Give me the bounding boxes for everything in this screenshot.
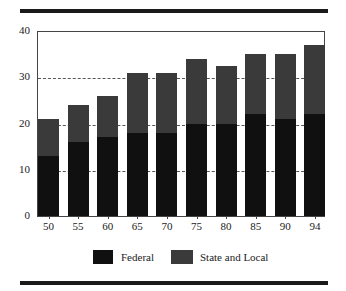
bar-55 [68, 105, 89, 216]
bar-50 [38, 119, 59, 216]
x-tick-label: 55 [63, 220, 93, 232]
y-tick-label: 0 [4, 209, 30, 221]
federal-segment [38, 156, 59, 216]
federal-segment [68, 142, 89, 216]
bar-80 [216, 66, 237, 216]
state-and-local-segment [68, 105, 89, 142]
federal-segment [186, 124, 207, 217]
bar-60 [97, 96, 118, 216]
bar-75 [186, 59, 207, 216]
x-tick-mark [108, 216, 109, 219]
y-tick-label: 10 [4, 163, 30, 175]
x-tick-label: 70 [152, 220, 182, 232]
bar-85 [245, 54, 266, 216]
x-tick-label: 80 [211, 220, 241, 232]
x-axis-line [37, 216, 325, 217]
x-tick-mark [285, 216, 286, 219]
legend-swatch-state-and-local [171, 250, 193, 264]
x-tick-mark [226, 216, 227, 219]
legend-swatch-federal [93, 250, 113, 264]
state-and-local-segment [186, 59, 207, 124]
x-tick-label: 75 [182, 220, 212, 232]
bar-94 [304, 45, 325, 216]
federal-segment [127, 133, 148, 216]
y-tick-label: 40 [4, 24, 30, 36]
x-tick-mark [167, 216, 168, 219]
federal-segment [304, 114, 325, 216]
x-tick-label: 60 [93, 220, 123, 232]
state-and-local-segment [275, 54, 296, 119]
state-and-local-segment [216, 66, 237, 124]
bar-65 [127, 73, 148, 216]
bottom-rule [20, 281, 328, 285]
state-and-local-segment [97, 96, 118, 138]
federal-segment [156, 133, 177, 216]
bar-70 [156, 73, 177, 216]
x-tick-label: 94 [300, 220, 330, 232]
y-tick-label: 30 [4, 70, 30, 82]
x-tick-mark [78, 216, 79, 219]
x-tick-label: 90 [270, 220, 300, 232]
x-tick-label: 50 [34, 220, 64, 232]
y-tick-label: 20 [4, 117, 30, 129]
x-tick-mark [256, 216, 257, 219]
federal-segment [275, 119, 296, 216]
x-tick-label: 65 [122, 220, 152, 232]
state-and-local-segment [304, 45, 325, 114]
state-and-local-segment [156, 73, 177, 133]
x-tick-mark [197, 216, 198, 219]
x-tick-mark [49, 216, 50, 219]
x-tick-mark [137, 216, 138, 219]
legend-label-federal: Federal [121, 250, 154, 264]
state-and-local-segment [127, 73, 148, 133]
federal-segment [216, 124, 237, 217]
x-tick-label: 85 [241, 220, 271, 232]
top-rule [20, 9, 328, 13]
legend-label-state-and-local: State and Local [200, 250, 268, 264]
x-tick-mark [315, 216, 316, 219]
bar-90 [275, 54, 296, 216]
state-and-local-segment [245, 54, 266, 114]
federal-segment [97, 137, 118, 216]
federal-segment [245, 114, 266, 216]
state-and-local-segment [38, 119, 59, 156]
